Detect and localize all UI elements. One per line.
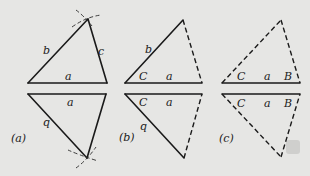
- label-angle-B: B: [283, 70, 292, 83]
- label-angle-B: B: [283, 97, 292, 110]
- label-angle-C: C: [237, 97, 246, 110]
- side-b-line: [125, 20, 183, 83]
- side-c-dashed-line: [184, 94, 202, 158]
- side-b-line: [28, 19, 88, 83]
- panel-b-lower-triangle: C a b: [125, 94, 202, 158]
- panel-a-upper-triangle: a b c: [28, 10, 107, 83]
- label-angle-C: C: [139, 70, 148, 83]
- side-b-dashed-line: [222, 94, 281, 157]
- side-c-dashed-line: [183, 20, 202, 83]
- label-side-a: a: [264, 70, 271, 83]
- panel-caption: (c): [219, 132, 234, 145]
- label-side-c: c: [98, 45, 104, 58]
- print-smudge: [286, 140, 300, 154]
- panel-b: C a b C a b (b): [119, 20, 202, 158]
- label-side-b: b: [145, 43, 152, 56]
- panel-caption: (b): [119, 131, 135, 144]
- side-b-line: [28, 94, 87, 158]
- triangle-construction-figure: a b c a b (a) C a b C a: [0, 0, 310, 176]
- label-angle-C: C: [237, 70, 246, 83]
- panel-b-upper-triangle: C a b: [125, 20, 202, 83]
- label-side-a: a: [264, 97, 271, 110]
- compass-arc-b: [68, 150, 98, 161]
- label-side-b: b: [43, 44, 50, 57]
- label-side-b: b: [140, 121, 147, 134]
- side-c-line: [87, 94, 106, 158]
- panel-a-lower-triangle: a b: [28, 94, 106, 168]
- panel-c-upper-triangle: C a B: [222, 20, 300, 83]
- label-side-a: a: [65, 70, 72, 83]
- panel-a: a b c a b (a): [11, 10, 107, 168]
- panel-c: C a B C a B (c): [219, 20, 300, 157]
- label-side-a: a: [166, 70, 173, 83]
- label-side-a: a: [166, 96, 173, 109]
- label-side-a: a: [67, 96, 74, 109]
- label-angle-C: C: [139, 96, 148, 109]
- side-b-dashed-line: [222, 20, 281, 83]
- label-side-b: b: [43, 117, 50, 130]
- side-b-line: [125, 94, 184, 158]
- panel-caption: (a): [11, 132, 26, 145]
